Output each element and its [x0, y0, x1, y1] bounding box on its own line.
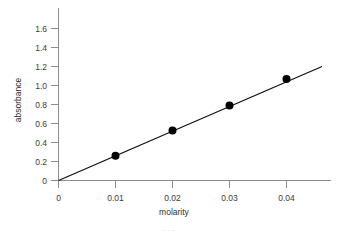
x-axis-tick-labels: 0 0.01 0.02 0.03 0.04 — [56, 193, 295, 203]
clipped-caption-remnant: - - - — [164, 226, 176, 233]
y-tick-label-8: 1.6 — [35, 24, 47, 34]
x-tick-label-2: 0.02 — [164, 193, 181, 203]
y-axis-title: absorbance — [13, 78, 23, 123]
y-tick-label-3: 0.6 — [35, 119, 47, 129]
plot-canvas: 0 0.2 0.4 0.6 0.8 1.0 1.2 1.4 1.6 0 0.01… — [0, 0, 338, 235]
data-points — [112, 75, 291, 160]
x-axis-title: molarity — [159, 207, 190, 217]
x-axis-ticks — [59, 181, 287, 189]
x-tick-label-1: 0.01 — [107, 193, 124, 203]
trend-line — [59, 67, 323, 181]
y-tick-label-4: 0.8 — [35, 100, 47, 110]
y-tick-label-1: 0.2 — [35, 157, 47, 167]
x-tick-label-4: 0.04 — [278, 193, 295, 203]
x-tick-label-3: 0.03 — [221, 193, 238, 203]
data-point-2 — [169, 127, 177, 135]
y-tick-label-2: 0.4 — [35, 138, 47, 148]
data-point-3 — [226, 102, 234, 110]
y-axis-ticks — [51, 29, 59, 181]
y-axis-tick-labels: 0 0.2 0.4 0.6 0.8 1.0 1.2 1.4 1.6 — [35, 24, 47, 186]
data-point-4 — [283, 75, 291, 83]
y-tick-label-7: 1.4 — [35, 43, 47, 53]
data-point-1 — [112, 152, 120, 160]
x-tick-label-0: 0 — [56, 193, 61, 203]
chart-figure: 0 0.2 0.4 0.6 0.8 1.0 1.2 1.4 1.6 0 0.01… — [0, 0, 338, 235]
y-tick-label-5: 1.0 — [35, 81, 47, 91]
y-tick-label-6: 1.2 — [35, 62, 47, 72]
y-tick-label-0: 0 — [42, 176, 47, 186]
